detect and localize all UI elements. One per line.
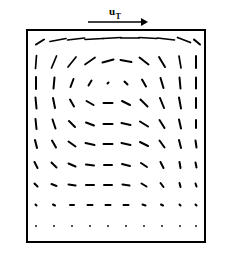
velocity-vector (36, 205, 37, 206)
velocity-vector (123, 185, 130, 186)
velocity-vector (161, 205, 163, 206)
velocity-vector (180, 78, 181, 89)
velocity-vector-dot (71, 225, 73, 227)
velocity-vector (196, 163, 197, 168)
velocity-vector-dot (107, 225, 109, 227)
velocity-vector (139, 38, 157, 39)
velocity-vector-dot (35, 225, 37, 227)
cavity-flow-figure: u T (0, 0, 226, 253)
lid-velocity-label: u (109, 5, 115, 17)
velocity-vector (180, 183, 181, 187)
velocity-vector-dot (53, 225, 55, 227)
velocity-vector (36, 119, 37, 129)
velocity-vector (180, 205, 181, 206)
lid-velocity-label-subscript: T (116, 12, 122, 21)
velocity-vector (86, 165, 94, 166)
velocity-vector-dot (179, 225, 181, 227)
velocity-vector-dot (161, 225, 163, 227)
velocity-vector (196, 141, 197, 148)
velocity-vector (53, 205, 55, 206)
velocity-vector-dot (143, 225, 145, 227)
velocity-vector (85, 39, 103, 40)
lid-velocity-arrow-group: u T (88, 5, 148, 26)
lid-arrow-head (141, 18, 148, 26)
velocity-vector-dot (195, 225, 197, 227)
velocity-vector (54, 78, 55, 89)
velocity-vector-dot (89, 225, 91, 227)
velocity-vector (196, 205, 197, 206)
velocity-vector (108, 83, 109, 84)
velocity-vector (143, 205, 146, 206)
velocity-vector (69, 185, 76, 186)
vector-field-svg: u T (0, 0, 226, 253)
velocity-vector (36, 56, 37, 69)
velocity-vector (196, 184, 197, 187)
velocity-vector (103, 38, 121, 39)
velocity-vector (180, 162, 181, 168)
velocity-vector-dot (125, 225, 127, 227)
velocity-vector (36, 98, 37, 109)
